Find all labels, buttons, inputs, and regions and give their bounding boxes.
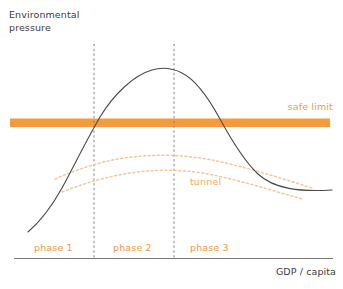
safe-limit-label: safe limit [288,101,333,112]
environmental-pressure-curve [28,68,332,232]
x-axis-label: GDP / capita [276,266,336,279]
tunnel-lower-curve [62,170,302,199]
environmental-kuznets-curve-figure: Environmental pressure GDP / capita safe… [0,0,343,289]
phase-1-label: phase 1 [34,242,73,253]
phase-2-label: phase 2 [113,242,152,253]
safe-limit-band [10,119,330,128]
phase-3-label: phase 3 [190,242,229,253]
tunnel-label: tunnel [190,176,221,187]
y-axis-label: Environmental pressure [9,9,119,34]
